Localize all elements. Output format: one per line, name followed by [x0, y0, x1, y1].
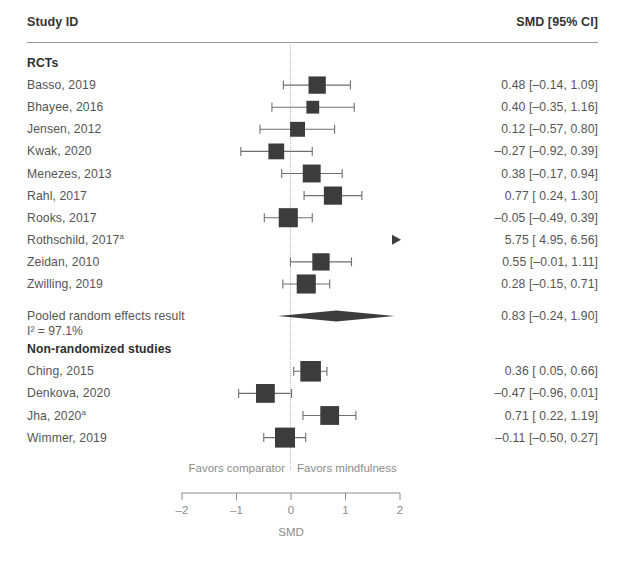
study-estimate-rothschild-2017: 5.75 [ 4.95, 6.56] [505, 233, 598, 247]
study-estimate-menezes-2013: 0.38 [–0.17, 0.94] [501, 167, 598, 181]
study-label-basso-2019: Basso, 2019 [27, 78, 96, 92]
effect-marker-ching-2015 [300, 361, 321, 382]
axis-tick-label-1: –1 [230, 504, 243, 516]
column-header-estimate: SMD [95% CI] [516, 15, 598, 29]
study-estimate-zwilling-2019: 0.28 [–0.15, 0.71] [501, 277, 598, 291]
study-label-rooks-2017: Rooks, 2017 [27, 211, 97, 225]
pooled-diamond [278, 311, 395, 322]
study-estimate-jensen-2012: 0.12 [–0.57, 0.80] [501, 122, 598, 136]
study-label-ching-2015: Ching, 2015 [27, 364, 94, 378]
header-divider [27, 42, 598, 43]
effect-marker-kwak-2020 [268, 144, 284, 160]
study-estimate-kwak-2020: –0.27 [–0.92, 0.39] [494, 144, 598, 158]
group-header-non-randomized-studies: Non-randomized studies [27, 342, 171, 356]
effect-marker-rooks-2017 [279, 208, 298, 227]
effect-marker-zeidan-2010 [312, 253, 329, 270]
forest-plot: Study ID SMD [95% CI] RCTsBasso, 20190.4… [0, 0, 620, 561]
study-label-denkova-2020: Denkova, 2020 [27, 386, 110, 400]
study-label-kwak-2020: Kwak, 2020 [27, 144, 92, 158]
study-label-rothschild-2017: Rothschild, 2017a [27, 233, 124, 247]
zero-reference-line [290, 45, 292, 470]
study-estimate-zeidan-2010: 0.55 [–0.01, 1.11] [502, 255, 598, 269]
offscale-arrow-rothschild-2017 [392, 235, 401, 245]
effect-marker-wimmer-2019 [275, 428, 295, 448]
effect-marker-denkova-2020 [256, 384, 275, 403]
footnote-marker: a [81, 407, 86, 416]
study-estimate-rahl-2017: 0.77 [ 0.24, 1.30] [505, 189, 598, 203]
effect-marker-basso-2019 [309, 76, 326, 93]
axis-hint-left: Favors comparator [188, 462, 285, 474]
pooled-result-label: Pooled random effects result [27, 309, 185, 323]
footnote-marker: a [119, 232, 124, 241]
study-estimate-ching-2015: 0.36 [ 0.05, 0.66] [505, 364, 598, 378]
study-label-bhayee-2016: Bhayee, 2016 [27, 100, 103, 114]
study-estimate-jha-2020: 0.71 [ 0.22, 1.19] [505, 409, 598, 423]
study-label-zeidan-2010: Zeidan, 2010 [27, 255, 99, 269]
effect-marker-rahl-2017 [324, 187, 342, 205]
study-estimate-rooks-2017: –0.05 [–0.49, 0.39] [494, 211, 598, 225]
effect-marker-menezes-2013 [303, 165, 321, 183]
study-label-jensen-2012: Jensen, 2012 [27, 122, 101, 136]
group-header-rcts: RCTs [27, 56, 58, 70]
pooled-result-estimate: 0.83 [–0.24, 1.90] [501, 309, 598, 323]
study-label-wimmer-2019: Wimmer, 2019 [27, 431, 107, 445]
axis-tick-label-2: 0 [288, 504, 294, 516]
study-label-zwilling-2019: Zwilling, 2019 [27, 277, 103, 291]
axis-tick-label-4: 2 [397, 504, 403, 516]
study-estimate-bhayee-2016: 0.40 [–0.35, 1.16] [501, 100, 598, 114]
study-estimate-denkova-2020: –0.47 [–0.96, 0.01] [494, 386, 598, 400]
effect-marker-zwilling-2019 [297, 274, 316, 293]
effect-marker-jha-2020 [320, 406, 339, 425]
study-estimate-wimmer-2019: –0.11 [–0.50, 0.27] [495, 431, 598, 445]
effect-marker-jensen-2012 [290, 122, 305, 137]
column-header-study-id: Study ID [27, 15, 79, 29]
axis-tick-label-3: 1 [342, 504, 348, 516]
axis-hint-right: Favors mindfulness [297, 462, 397, 474]
axis-tick-label-0: –2 [176, 504, 189, 516]
study-estimate-basso-2019: 0.48 [–0.14, 1.09] [501, 78, 598, 92]
study-label-menezes-2013: Menezes, 2013 [27, 167, 112, 181]
study-label-jha-2020: Jha, 2020a [27, 409, 86, 423]
effect-marker-bhayee-2016 [306, 101, 319, 114]
study-label-rahl-2017: Rahl, 2017 [27, 189, 87, 203]
heterogeneity-statistic: I² = 97.1% [27, 324, 83, 338]
axis-title: SMD [278, 526, 304, 538]
